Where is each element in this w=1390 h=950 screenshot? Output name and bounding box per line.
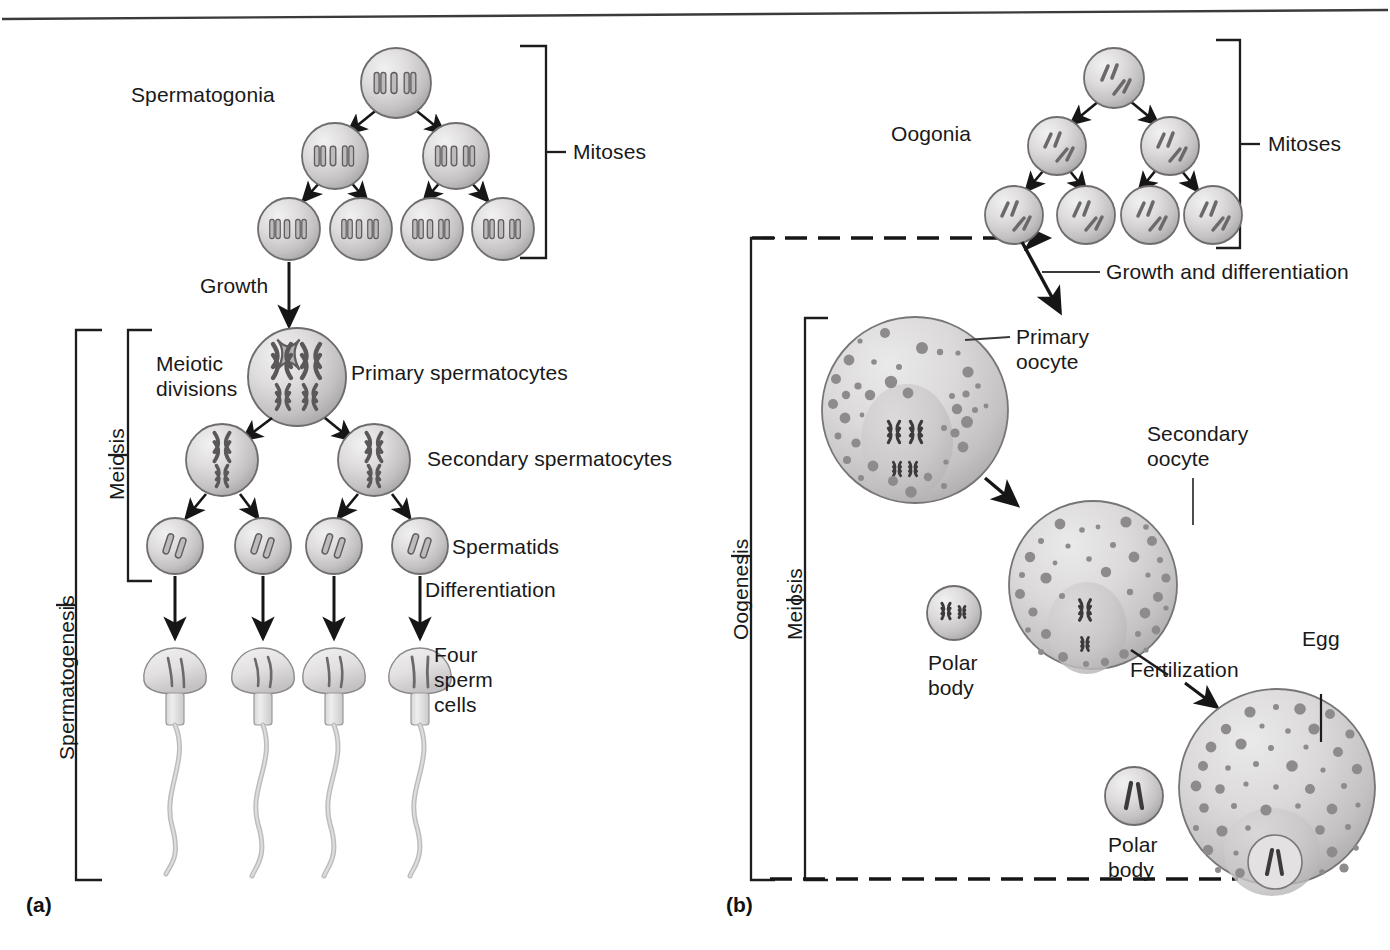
panel-tag-a: (a) — [26, 893, 52, 917]
panel-tag-b: (b) — [726, 893, 753, 917]
panel-b-oogenesis — [731, 40, 1375, 896]
spermatogonium-cell — [330, 198, 392, 260]
label-meiotic-divisions-line1: Meiotic — [156, 352, 223, 377]
sperm-cell — [303, 648, 365, 876]
figure-canvas — [0, 0, 1390, 950]
polar-body-second — [1105, 767, 1163, 825]
spermatogonium-cell — [302, 123, 368, 189]
label-polar-body-2-line2: body — [1108, 858, 1154, 883]
label-meiosis-bracket-b: Meiosis — [783, 568, 808, 640]
label-oogenesis-bracket: Oogenesis — [729, 539, 754, 640]
label-meiosis-bracket-a: Meiosis — [105, 428, 130, 500]
label-egg: Egg — [1302, 627, 1340, 652]
label-growth-and-differentiation: Growth and differentiation — [1106, 260, 1349, 285]
label-meiotic-divisions-line2: divisions — [156, 377, 237, 402]
spermatid-cell — [306, 518, 362, 574]
label-oogonia: Oogonia — [891, 122, 971, 147]
secondary-spermatocyte-cell — [186, 424, 258, 496]
label-four-sperm-line2: sperm — [434, 668, 493, 693]
spermatid-cell — [235, 518, 291, 574]
spermatogonium-cell — [423, 123, 489, 189]
polar-body-first — [927, 586, 981, 640]
label-primary-oocyte-line1: Primary — [1016, 325, 1089, 350]
label-mitoses-b: Mitoses — [1268, 132, 1341, 157]
label-spermatogenesis-bracket: Spermatogenesis — [55, 595, 80, 760]
growth-differentiation-arrow-b — [1022, 242, 1100, 312]
label-primary-oocyte-line2: oocyte — [1016, 350, 1078, 375]
spermatid-cell — [147, 518, 203, 574]
label-spermatogonia: Spermatogonia — [131, 83, 275, 108]
egg-cell — [1179, 689, 1375, 896]
oogonium-cell — [1121, 186, 1179, 244]
oogonium-cell — [985, 186, 1043, 244]
label-polar-body-1-line1: Polar — [928, 651, 978, 676]
oogonium-cell — [1084, 48, 1144, 108]
oogonium-cell — [1141, 117, 1199, 175]
label-primary-spermatocytes: Primary spermatocytes — [351, 361, 568, 386]
label-differentiation: Differentiation — [425, 578, 556, 603]
primary-spermatocyte-cell — [248, 328, 346, 426]
label-growth: Growth — [200, 274, 268, 299]
label-polar-body-2-line1: Polar — [1108, 833, 1158, 858]
label-fertilization: Fertilization — [1130, 658, 1239, 683]
label-polar-body-1-line2: body — [928, 676, 974, 701]
differentiation-arrows-a — [175, 576, 420, 638]
primary-oocyte-cell — [822, 317, 1008, 503]
sperm-cell — [232, 648, 294, 876]
spermatogonium-cell — [401, 198, 463, 260]
label-secondary-spermatocytes: Secondary spermatocytes — [427, 447, 672, 472]
meiosis-two-arrows-a — [186, 494, 410, 518]
secondary-spermatocyte-cell — [338, 424, 410, 496]
meiosis-gametogenesis-figure: Spermatogonia Mitoses Growth Meiotic div… — [0, 0, 1390, 950]
label-four-sperm-line1: Four — [434, 643, 478, 668]
oogonium-cell — [1184, 186, 1242, 244]
spermatogonium-cell — [472, 198, 534, 260]
sperm-cell — [144, 648, 206, 874]
spermatogonium-cell — [258, 198, 320, 260]
spermatid-cell — [392, 518, 448, 574]
secondary-oocyte-cell — [1009, 501, 1177, 674]
label-four-sperm-line3: cells — [434, 693, 477, 718]
oogonium-cell — [1057, 186, 1115, 244]
spermatogonium-cell — [361, 48, 431, 118]
label-secondary-oocyte-line1: Secondary — [1147, 422, 1248, 447]
label-mitoses-a: Mitoses — [573, 140, 646, 165]
oogonium-cell — [1028, 117, 1086, 175]
label-spermatids: Spermatids — [452, 535, 559, 560]
top-divider-rule — [2, 10, 1388, 19]
label-secondary-oocyte-line2: oocyte — [1147, 447, 1209, 472]
meiosis-one-arrow-b — [985, 478, 1017, 505]
